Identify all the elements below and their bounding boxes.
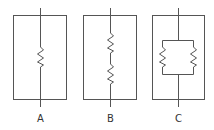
circuit-diagram: A B C [0, 0, 214, 130]
circuit-c-label: C [175, 113, 182, 124]
circuit-b-label: B [107, 113, 114, 124]
circuit-c [153, 8, 205, 107]
circuit-a-label: A [37, 113, 44, 124]
resistor-icon [108, 33, 114, 53]
circuit-a [14, 8, 67, 107]
circuit-b [84, 8, 137, 107]
resistor-icon [108, 64, 114, 84]
resistor-icon [38, 47, 44, 67]
resistor-icon [191, 47, 197, 67]
resistor-icon [160, 47, 166, 67]
